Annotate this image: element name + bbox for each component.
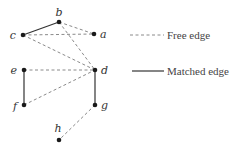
node-label-b: b [55,6,62,19]
node-label-f: f [12,100,19,113]
node-label-d: d [101,64,108,77]
legend-item-free: Free edge [130,29,210,41]
matching-graph-diagram: abcdefgh Free edgeMatched edge [0,0,239,150]
node-dot-f [22,103,27,108]
legend: Free edgeMatched edge [130,29,229,77]
node-label-e: e [10,64,17,77]
node-b: b [55,6,62,24]
node-c: c [10,29,25,42]
node-label-c: c [10,29,16,42]
legend-item-matched: Matched edge [132,65,229,77]
node-dot-h [57,138,62,143]
node-label-h: h [54,122,61,135]
node-label-a: a [100,28,107,41]
node-dot-c [21,33,26,38]
node-h: h [54,122,61,142]
node-label-g: g [101,99,108,112]
matched-edge-c-b [23,22,59,35]
free-edge-b-d [59,22,95,70]
node-dot-b [57,20,62,25]
free-edge-c-d [23,35,95,70]
node-dot-a [92,32,97,37]
legend-label-matched: Matched edge [167,65,229,77]
node-dot-d [93,68,98,73]
legend-label-free: Free edge [167,29,210,41]
node-a: a [92,28,107,41]
free-edge-g-h [59,105,95,140]
free-edge-f-d [24,70,95,105]
free-edge-b-a [59,22,94,34]
node-dot-g [93,103,98,108]
free-edge-c-a [23,34,94,35]
node-dot-e [22,68,27,73]
